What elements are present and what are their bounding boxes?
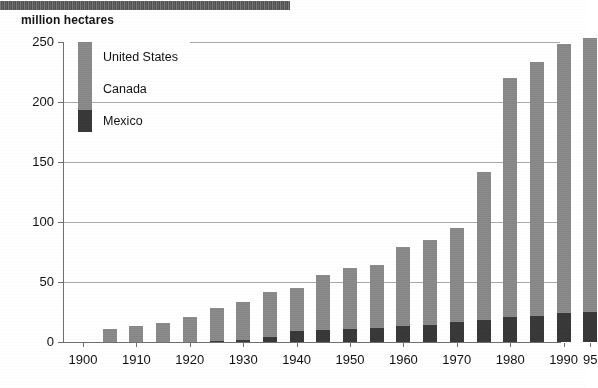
legend-swatch-canada <box>78 76 92 110</box>
x-axis-label-1930: 1930 <box>229 352 258 367</box>
x-axis-label-1970: 1970 <box>442 352 471 367</box>
bar-segment-united-states-1905 <box>103 329 117 342</box>
bar-1950 <box>343 42 357 342</box>
x-tick-1940 <box>297 343 298 347</box>
bar-segment-united-states-1970 <box>450 228 464 322</box>
x-tick-1990 <box>564 343 565 347</box>
x-axis-label-1990: 1990 <box>549 352 578 367</box>
bar-segment-united-states-1995 <box>583 38 597 312</box>
bar-segment-mexico-1990 <box>557 313 571 342</box>
legend-swatch <box>78 42 92 132</box>
legend-label-canada: Canada <box>103 82 147 96</box>
x-axis-label-95: 95 <box>583 352 597 367</box>
y-axis-label-150: 150 <box>8 155 54 168</box>
bar-segment-united-states-1945 <box>316 275 330 330</box>
x-axis-label-1940: 1940 <box>282 352 311 367</box>
legend-label-mexico: Mexico <box>103 114 143 128</box>
x-tick-1920 <box>190 343 191 347</box>
bar-1925 <box>210 42 224 342</box>
legend-label-united-states: United States <box>103 50 178 64</box>
x-tick-1950 <box>350 343 351 347</box>
bar-segment-mexico-1950 <box>343 329 357 342</box>
bar-segment-united-states-1935 <box>263 292 277 338</box>
x-tick-1970 <box>457 343 458 347</box>
bar-segment-united-states-1915 <box>156 323 170 342</box>
bar-segment-united-states-1980 <box>503 78 517 317</box>
bar-segment-mexico-1960 <box>396 326 410 342</box>
bar-segment-mexico-1975 <box>477 320 491 342</box>
x-axis-label-1920: 1920 <box>175 352 204 367</box>
y-axis-label-100: 100 <box>8 215 54 228</box>
bar-1985 <box>530 42 544 342</box>
bar-segment-united-states-1985 <box>530 62 544 315</box>
bar-segment-united-states-1940 <box>290 288 304 331</box>
bar-1945 <box>316 42 330 342</box>
x-axis-label-1910: 1910 <box>122 352 151 367</box>
bar-segment-united-states-1960 <box>396 247 410 326</box>
bar-segment-mexico-1970 <box>450 322 464 342</box>
bar-1940 <box>290 42 304 342</box>
x-axis-line <box>63 342 561 343</box>
bar-segment-mexico-1955 <box>370 328 384 342</box>
x-tick-1900 <box>83 343 84 347</box>
bar-segment-mexico-1925 <box>210 341 224 342</box>
y-tick-0 <box>58 342 64 343</box>
x-tick-1960 <box>403 343 404 347</box>
bar-1970 <box>450 42 464 342</box>
bar-segment-mexico-1935 <box>263 337 277 342</box>
bar-1930 <box>236 42 250 342</box>
bar-segment-mexico-1995 <box>583 312 597 342</box>
bar-segment-mexico-1980 <box>503 317 517 342</box>
legend-swatch-united-states <box>78 42 92 76</box>
x-axis-label-1960: 1960 <box>389 352 418 367</box>
bar-segment-united-states-1930 <box>236 302 250 339</box>
y-axis-label-0: 0 <box>8 335 54 348</box>
x-tick-1930 <box>243 343 244 347</box>
x-tick-1910 <box>136 343 137 347</box>
bar-segment-united-states-1920 <box>183 317 197 342</box>
bar-1935 <box>263 42 277 342</box>
bar-segment-mexico-1940 <box>290 331 304 342</box>
bar-segment-mexico-1985 <box>530 316 544 342</box>
x-tick-95 <box>590 343 591 347</box>
bar-segment-united-states-1955 <box>370 265 384 327</box>
bar-segment-united-states-1990 <box>557 44 571 313</box>
bar-segment-mexico-1945 <box>316 330 330 342</box>
bar-1975 <box>477 42 491 342</box>
bar-segment-united-states-1950 <box>343 268 357 329</box>
x-axis-label-1900: 1900 <box>69 352 98 367</box>
bar-1965 <box>423 42 437 342</box>
bar-segment-mexico-1930 <box>236 340 250 342</box>
y-axis-label-250: 250 <box>8 35 54 48</box>
bar-segment-mexico-1965 <box>423 325 437 342</box>
bar-segment-united-states-1975 <box>477 172 491 321</box>
bar-1990 <box>557 42 571 342</box>
y-axis-labels: 250200150100500 <box>0 0 54 388</box>
bar-1955 <box>370 42 384 342</box>
legend-swatch-mexico <box>78 110 92 132</box>
bar-1960 <box>396 42 410 342</box>
x-axis-label-1950: 1950 <box>336 352 365 367</box>
y-axis-label-50: 50 <box>8 275 54 288</box>
bar-1995 <box>583 42 597 342</box>
bar-segment-united-states-1925 <box>210 308 224 340</box>
bar-segment-united-states-1910 <box>129 326 143 342</box>
bar-1980 <box>503 42 517 342</box>
y-axis-label-200: 200 <box>8 95 54 108</box>
bar-segment-united-states-1965 <box>423 240 437 325</box>
x-tick-1980 <box>510 343 511 347</box>
chart-legend: United States Canada Mexico <box>78 42 198 138</box>
x-axis-label-1980: 1980 <box>496 352 525 367</box>
